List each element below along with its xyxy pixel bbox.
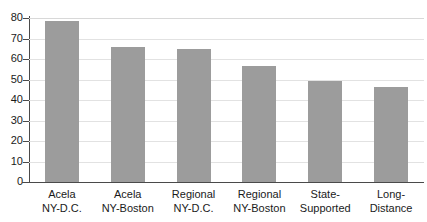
x-axis-label: Long-Distance — [358, 188, 424, 215]
x-axis-label-line: NY-Boston — [95, 202, 161, 216]
bar-slot — [374, 0, 408, 182]
bar-slot — [308, 0, 342, 182]
x-axis-label: RegionalNY-Boston — [227, 188, 293, 215]
bar[interactable] — [374, 87, 408, 182]
y-tick-label-40: 40 — [1, 94, 23, 105]
x-axis-label-line: Long- — [358, 188, 424, 202]
x-axis-label-line: Distance — [358, 202, 424, 216]
bar-slot — [45, 0, 79, 182]
bar-series — [29, 0, 424, 182]
x-axis-label: AcelaNY-Boston — [95, 188, 161, 215]
y-tick-label-20: 20 — [1, 135, 23, 146]
y-tick-label-80: 80 — [1, 12, 23, 23]
bar[interactable] — [308, 81, 342, 182]
bar[interactable] — [177, 49, 211, 182]
bar[interactable] — [242, 66, 276, 182]
y-tick-60: 60 — [0, 53, 23, 64]
y-tick-70: 70 — [0, 33, 23, 44]
y-tick-label-70: 70 — [1, 33, 23, 44]
bar-slot — [242, 0, 276, 182]
x-axis-label: State-Supported — [292, 188, 358, 215]
y-tick-label-50: 50 — [1, 74, 23, 85]
bar-slot — [111, 0, 145, 182]
bar-chart: 01020304050607080 AcelaNY-D.C.AcelaNY-Bo… — [0, 0, 427, 222]
x-axis-label-line: State- — [292, 188, 358, 202]
x-axis-label-line: NY-Boston — [227, 202, 293, 216]
bar[interactable] — [111, 47, 145, 182]
y-tick-20: 20 — [0, 135, 23, 146]
y-tick-30: 30 — [0, 115, 23, 126]
bar[interactable] — [45, 21, 79, 182]
x-axis-label-line: Acela — [29, 188, 95, 202]
x-axis-line — [22, 182, 424, 183]
x-axis-label-line: Regional — [227, 188, 293, 202]
x-axis-label-line: Regional — [161, 188, 227, 202]
bar-slot — [177, 0, 211, 182]
y-tick-label-30: 30 — [1, 115, 23, 126]
y-tick-label-10: 10 — [1, 156, 23, 167]
x-axis-label-line: NY-D.C. — [161, 202, 227, 216]
y-tick-50: 50 — [0, 74, 23, 85]
y-tick-80: 80 — [0, 12, 23, 23]
y-tick-label-0: 0 — [1, 176, 23, 187]
y-tick-label-60: 60 — [1, 53, 23, 64]
y-tick-40: 40 — [0, 94, 23, 105]
x-axis-label-line: NY-D.C. — [29, 202, 95, 216]
x-axis-label-line: Acela — [95, 188, 161, 202]
x-axis-label-line: Supported — [292, 202, 358, 216]
x-axis-label: AcelaNY-D.C. — [29, 188, 95, 215]
y-tick-0: 0 — [0, 176, 23, 187]
y-tick-10: 10 — [0, 156, 23, 167]
x-axis-label: RegionalNY-D.C. — [161, 188, 227, 215]
